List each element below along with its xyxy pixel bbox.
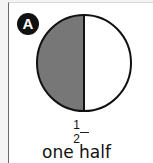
caption: one half xyxy=(0,143,153,161)
fraction-numerator: 1 xyxy=(0,119,153,131)
shaded-half xyxy=(37,15,84,111)
